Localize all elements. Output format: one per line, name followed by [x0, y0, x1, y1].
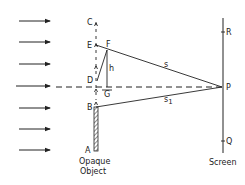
label-g: G: [104, 90, 110, 99]
ray-b-p: [96, 87, 222, 107]
label-a: A: [85, 146, 91, 155]
segment-d-f: [97, 50, 107, 81]
label-opaque: Opaque: [79, 157, 110, 166]
label-object: Object: [80, 167, 106, 176]
label-s1: s1: [164, 95, 173, 106]
opaque-object: [94, 107, 98, 151]
label-f: F: [106, 40, 111, 49]
label-b: B: [87, 103, 93, 112]
diffraction-diagram: C E F h D G B A s s1 R P Q Opaque Object…: [0, 0, 245, 185]
label-p: P: [226, 83, 231, 92]
label-c: C: [87, 18, 93, 27]
label-r: R: [226, 28, 232, 37]
ray-e-p: [96, 45, 222, 87]
label-e: E: [87, 41, 92, 50]
incident-arrows: [16, 21, 50, 150]
label-d: D: [87, 76, 93, 85]
label-screen: Screen: [209, 158, 237, 167]
label-h: h: [109, 64, 114, 73]
label-s: s: [164, 60, 168, 69]
rays: [96, 45, 222, 107]
label-s1-sub: 1: [168, 98, 172, 106]
label-q: Q: [226, 137, 232, 146]
wavefront-line: [95, 22, 98, 105]
